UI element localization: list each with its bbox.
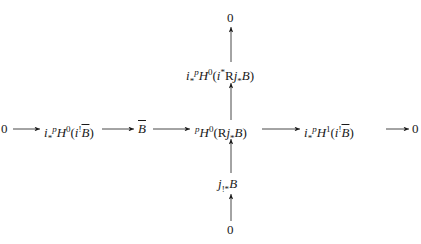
node-right-object: i*pH1(i!B) bbox=[304, 121, 354, 141]
node-bottom-zero: 0 bbox=[227, 222, 234, 238]
rparen: ) bbox=[89, 125, 93, 140]
node-center: pH0(Rj*B) bbox=[195, 121, 247, 141]
node-left-zero: 0 bbox=[1, 121, 8, 137]
rparen: ) bbox=[242, 125, 246, 140]
star-sub: * bbox=[48, 133, 53, 143]
rparen: ) bbox=[349, 125, 353, 140]
R-symbol: R bbox=[225, 68, 234, 83]
zero-label: 0 bbox=[1, 121, 8, 136]
rparen: ) bbox=[250, 68, 254, 83]
star-sub: * bbox=[190, 76, 195, 86]
node-top-object: i*pH0(i*Rj*B) bbox=[186, 64, 254, 84]
shriek-star-sub: !* bbox=[222, 184, 230, 194]
H-symbol: H bbox=[199, 68, 208, 83]
B-symbol: B bbox=[229, 176, 237, 191]
node-bbar: B bbox=[138, 121, 146, 137]
B-bar-symbol: B bbox=[138, 121, 146, 136]
node-left-object: i*pH0(i!B) bbox=[44, 121, 94, 141]
node-bottom-object: j!*B bbox=[218, 176, 237, 192]
H-symbol: H bbox=[57, 125, 66, 140]
zero-label: 0 bbox=[412, 121, 419, 136]
H-symbol: H bbox=[200, 125, 209, 140]
zero-label: 0 bbox=[227, 222, 234, 237]
H-symbol: H bbox=[317, 125, 326, 140]
node-top-zero: 0 bbox=[227, 10, 234, 26]
node-right-zero: 0 bbox=[412, 121, 419, 137]
B-symbol: B bbox=[242, 68, 250, 83]
zero-label: 0 bbox=[227, 10, 234, 25]
star-sub: * bbox=[308, 133, 313, 143]
